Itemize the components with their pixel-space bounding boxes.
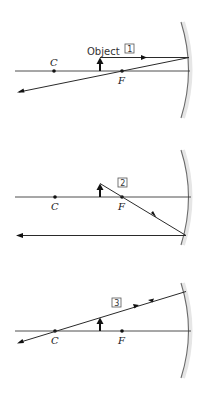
object-arrow (97, 58, 104, 72)
mirror-shading (183, 283, 191, 378)
label-c: C (50, 57, 58, 68)
label-f: F (117, 75, 126, 86)
object-arrow (97, 318, 104, 332)
point-c (52, 69, 56, 73)
panel-3: C F 3 (15, 283, 191, 378)
object-label: Object (87, 46, 120, 57)
ray-through-c (19, 292, 186, 343)
label-f: F (117, 201, 126, 212)
reflected-ray-1 (19, 58, 189, 93)
point-c (53, 195, 57, 199)
ray-direction-arrow (17, 339, 24, 344)
label-c: C (51, 201, 59, 212)
ray-diagram: C F Object 1 C F 2 (0, 0, 203, 395)
panel-2: C F 2 (15, 150, 191, 245)
mirror-shading (183, 22, 191, 118)
point-f (120, 329, 124, 333)
incident-ray-2 (100, 184, 186, 236)
label-c: C (51, 335, 59, 346)
ray-direction-arrow (141, 55, 147, 60)
step-number-2: 2 (120, 179, 125, 188)
step-number-1: 1 (127, 45, 132, 54)
ray-direction-arrow (16, 233, 23, 238)
step-number-3: 3 (114, 299, 119, 308)
ray-direction-arrow (17, 89, 25, 93)
panel-1: C F Object 1 (15, 22, 191, 118)
mirror-shading (183, 150, 191, 245)
label-f: F (117, 335, 126, 346)
